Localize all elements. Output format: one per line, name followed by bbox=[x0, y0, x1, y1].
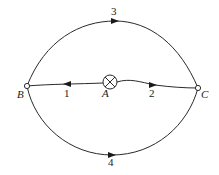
node-b-circle-icon bbox=[24, 83, 29, 88]
edge-2-label: 2 bbox=[149, 87, 155, 99]
node-c-label: C bbox=[201, 88, 209, 100]
node-c-circle-icon bbox=[195, 85, 200, 90]
edge-3-arrow-icon bbox=[111, 18, 119, 24]
edge-4-lower-arc bbox=[27, 86, 198, 155]
node-a-label: A bbox=[101, 87, 109, 99]
edge-3-label: 3 bbox=[111, 5, 117, 17]
edge-4-label: 4 bbox=[108, 156, 114, 168]
edge-2-line bbox=[117, 80, 198, 88]
flow-network-diagram: 3 4 1 2 A B C bbox=[0, 0, 219, 175]
node-b-label: B bbox=[17, 88, 24, 100]
edge-1-label: 1 bbox=[64, 87, 70, 99]
